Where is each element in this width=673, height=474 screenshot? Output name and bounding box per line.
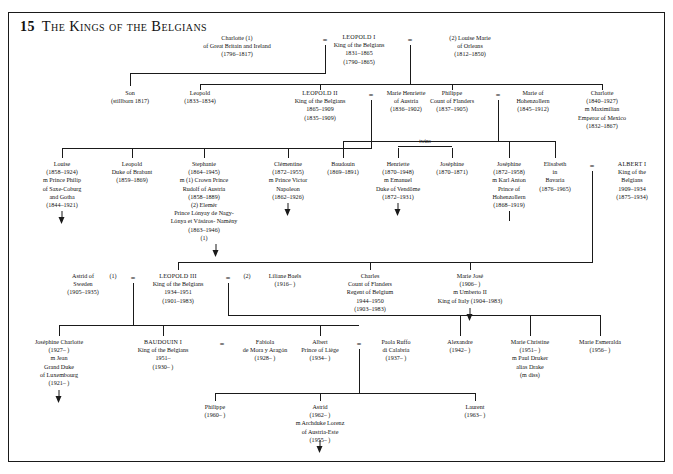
connector-to-son: [130, 73, 131, 86]
connector-albert1-down: [592, 171, 593, 236]
connector-gen5-bar-mid: [228, 315, 460, 316]
page-title: 15The Kings of the Belgians: [20, 18, 207, 35]
person-leopold-iii: LEOPOLD III King of the Belgians 1934–19…: [153, 272, 204, 305]
tick-baudouin1869: [343, 141, 344, 158]
tick-elisabeth: [555, 141, 556, 158]
person-marie-esmeralda: Marie Esmeralda (1956– ): [579, 338, 621, 354]
connector-josephine1872-down: [509, 211, 510, 221]
marriage-symbol-philippe-marie: [496, 92, 501, 100]
person-baudouin-1869: Baudouin (1869–1891): [327, 160, 358, 176]
order-label-astrid: (1): [109, 272, 116, 280]
connector-liliane-down: [228, 283, 229, 315]
tick-charles: [370, 262, 371, 270]
person-elisabeth-bavaria: Elisabeth in Bavaria (1876–1965): [539, 160, 570, 193]
connector-albert1-down2: [592, 236, 593, 262]
genealogy-plate: 15The Kings of the Belgians Charlotte (1…: [0, 0, 673, 474]
order-label-liliane: (2): [243, 272, 250, 280]
twins-label: twins: [419, 138, 431, 144]
person-leopold-i: LEOPOLD I King of the Belgians 1831–1865…: [334, 33, 385, 66]
tick-marie-jose: [470, 262, 471, 270]
person-alexandre: Alexandre (1942– ): [447, 338, 472, 354]
person-astrid-sweden: Astrid of Sweden (1905–1935): [67, 272, 98, 297]
person-fabiola: Fabiola de Mora y Aragón (1928– ): [243, 338, 288, 363]
connector-gen5-bar-left: [59, 325, 359, 326]
tick-laurent1963: [475, 393, 476, 401]
tick-josephine-charlotte: [59, 325, 60, 336]
person-josephine-charlotte: Joséphine Charlotte (1927– ) m Jean Gran…: [35, 338, 83, 387]
tick-alexandre: [460, 315, 461, 336]
connector-astrid-down: [133, 283, 134, 325]
connector-philippe-down: [498, 100, 499, 141]
descent-arrow-gen4: [213, 244, 220, 257]
tick-marie-esmeralda: [600, 315, 601, 336]
person-stephanie: Stephanie (1864–1945) m (1) Crown Prince…: [171, 160, 238, 242]
connector-gen3-bar-left: [62, 148, 372, 149]
descent-arrow-astrid1962: [317, 440, 324, 453]
plate-number: 15: [20, 19, 35, 34]
descent-arrow-clementine: [285, 203, 292, 216]
person-albert-i: ALBERT I King of the Belgians 1909–1934 …: [616, 160, 647, 201]
person-philippe-1960: Philippe (1960– ): [205, 403, 226, 419]
marriage-symbol-elisabeth-albert1: [590, 163, 595, 171]
person-marie-hohenzollern: Marie of Hohenzollern (1845–1912): [516, 89, 549, 114]
tick-clementine: [288, 148, 289, 158]
descent-arrow-louise: [59, 211, 66, 224]
connector-gen4-bar: [178, 262, 593, 263]
person-philippe-flanders: Philippe Count of Flanders (1837–1905): [430, 89, 474, 114]
marriage-symbol-leopold3-liliane: [226, 275, 231, 283]
twins-bracket: [398, 146, 452, 147]
person-astrid-1962: Astrid (1962– ) m Archduke Lorenz of Aus…: [296, 403, 345, 444]
person-marie-jose: Marie José (1906– ) m Umberto II King of…: [438, 272, 502, 305]
person-henriette: Henriette (1870–1948) m Emanuel Duke of …: [376, 160, 420, 201]
person-clementine: Clémentine (1872–1955) m Prince Victor N…: [269, 160, 307, 201]
person-marie-henriette: Marie Henriette of Austria (1836–1902): [387, 89, 426, 114]
plate-border-left: [8, 12, 9, 462]
person-liliane-baels: Liliane Baels (1916– ): [269, 272, 301, 288]
person-leopold-1833: Leopold (1833–1834): [184, 89, 215, 105]
tick-leopold-brabant: [132, 148, 133, 158]
person-son-stillborn: Son (stillborn 1817): [111, 89, 149, 105]
connector-leopold1-down: [410, 45, 411, 84]
plate-border-right: [664, 12, 665, 462]
tick-stephanie: [204, 148, 205, 158]
tick-josephine1872: [509, 141, 510, 158]
tick-albert-liege: [320, 325, 321, 336]
connector-gen3-bar-right: [343, 141, 555, 142]
person-leopold-ii: LEOPOLD II King of the Belgians 1865–190…: [295, 89, 346, 122]
tick-louise: [62, 148, 63, 158]
tick-astrid1962: [320, 393, 321, 401]
tick-josephine1870: [452, 148, 453, 158]
tick-henriette: [398, 148, 399, 158]
person-louise-1858: Louise (1858–1924) m Prince Philip of Sa…: [43, 160, 82, 209]
marriage-symbol-astrid-leopold3: [131, 275, 136, 283]
marriage-symbol-baudouin-fabiola: [220, 341, 225, 349]
marriage-symbol-albert-paola: [357, 341, 362, 349]
tick-baudouin1: [163, 325, 164, 336]
person-josephine-1870: Joséphine (1870–1871): [436, 160, 467, 176]
descent-arrow-henriette: [395, 203, 402, 216]
person-albert-liege: Albert Prince of Liège (1934– ): [301, 338, 339, 363]
person-charles-flanders: Charles Count of Flanders Regent of Belg…: [347, 272, 393, 313]
person-marie-christine: Marie Christine (1951– ) m Paul Druker a…: [511, 338, 549, 379]
person-baudouin-i: BAUDOUIN I King of the Belgians 1951– (1…: [138, 338, 189, 371]
connector-charlotte-down: [325, 45, 326, 73]
person-louise-marie: (2) Louise Marie of Orleans (1812–1850): [449, 34, 490, 59]
plate-border-bottom: [8, 461, 665, 462]
marriage-symbol-charlotte-leopold1: [323, 37, 328, 45]
marriage-symbol-leopold2-marie: [369, 92, 374, 100]
tick-marie-christine: [530, 315, 531, 336]
person-charlotte-mexico: Charlotte (1840–1927) m Maximilian Emper…: [578, 89, 626, 130]
marriage-symbol-leopold1-louise: [408, 37, 413, 45]
person-leopold-brabant: Leopold Duke of Brabant (1859–1869): [112, 160, 153, 185]
connector-albert-paola-down: [359, 349, 360, 393]
tick-philippe1960: [215, 393, 216, 401]
person-paola-ruffo: Paola Ruffo di Calabria (1937– ): [381, 338, 410, 363]
plate-border-top: [8, 12, 665, 13]
person-charlotte-gb: Charlotte (1) of Great Britain and Irela…: [203, 34, 271, 59]
person-laurent-1963: Laurent (1963– ): [465, 403, 486, 419]
plate-title-text: The Kings of the Belgians: [42, 18, 207, 34]
person-josephine-1872: Joséphine (1872–1958) m Karl Anton Princ…: [492, 160, 526, 209]
tick-leopold3: [178, 262, 179, 270]
connector-gen6-bar: [215, 393, 475, 394]
descent-arrow-josephine-charlotte: [56, 390, 63, 403]
